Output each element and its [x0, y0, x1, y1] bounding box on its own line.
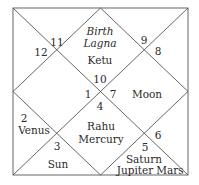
house-number-11: 11	[50, 37, 63, 48]
lagna-label: Lagna	[84, 38, 117, 49]
planet-sun: Sun	[48, 159, 69, 170]
house-number-7: 7	[110, 89, 117, 100]
house-number-3: 3	[54, 141, 61, 152]
house-number-2: 2	[21, 113, 28, 124]
house-number-4: 4	[97, 101, 104, 112]
house-number-10: 10	[93, 74, 106, 85]
planet-venus: Venus	[18, 125, 50, 136]
planet-jupiter: Jupiter	[117, 165, 154, 176]
planet-ketu: Ketu	[88, 55, 113, 66]
planet-mars: Mars	[156, 165, 183, 176]
house-number-9: 9	[141, 35, 148, 46]
planet-rahu: Rahu	[87, 121, 115, 132]
planet-moon: Moon	[132, 89, 162, 100]
house-number-5: 5	[142, 142, 149, 153]
house-number-12: 12	[34, 47, 47, 58]
house-number-1: 1	[85, 89, 92, 100]
planet-mercury: Mercury	[78, 134, 124, 145]
house-number-8: 8	[155, 46, 162, 57]
birth-label: Birth	[86, 26, 113, 37]
house-number-6: 6	[155, 130, 162, 141]
